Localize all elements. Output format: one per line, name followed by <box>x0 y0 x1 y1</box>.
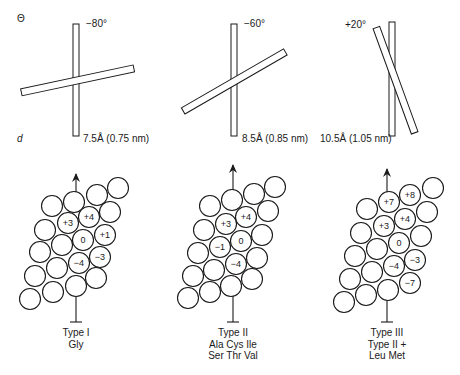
residue-list: Type II + <box>327 339 447 351</box>
residue-circle <box>100 202 121 223</box>
residue-circle <box>357 199 378 220</box>
helix-packing-diagram: Θ d −80° 7.5Å (0.75 nm) −60° 8.5Å (0.85 … <box>0 0 460 375</box>
residue-label: +4 <box>84 212 94 222</box>
residue-circle <box>204 260 225 281</box>
residue-label: +3 <box>379 221 389 231</box>
panel-3-helix-crossing: +20° 10.5Å (1.05 nm) <box>320 19 418 144</box>
residue-label: +1 <box>100 230 110 240</box>
residue-circle <box>200 282 221 303</box>
residue-circle <box>200 196 221 217</box>
residue-circle <box>194 220 215 241</box>
residue-circle <box>52 235 73 256</box>
residue-circle <box>20 289 41 310</box>
residue-circle <box>345 246 366 267</box>
angle-label: +20° <box>345 19 366 30</box>
residue-circle <box>258 201 279 222</box>
residue-circle <box>221 276 242 297</box>
caption-type-3: Type III Type II + Leu Met <box>327 327 447 362</box>
caption-type-1: Type I Gly <box>16 327 136 350</box>
residue-label: −3 <box>410 255 420 265</box>
residue-label: −4 <box>231 259 241 269</box>
crossing-helix-rod <box>373 26 418 134</box>
residue-label: −3 <box>95 252 105 262</box>
type-title: Type I <box>16 327 136 339</box>
residue-circle <box>108 178 129 199</box>
lattice-type-2: +4 +3 0 −1 −4 <box>178 165 286 322</box>
lattice-type-1: +4 +3 +1 0 −3 −4 <box>20 174 129 322</box>
caption-type-2: Type II Ala Cys Ile Ser Thr Val <box>173 327 293 362</box>
residue-circle <box>178 288 199 309</box>
residue-circle <box>265 177 286 198</box>
residue-circle <box>47 258 68 279</box>
residue-list: Gly <box>16 339 136 351</box>
residue-label: 0 <box>80 235 85 245</box>
residue-label: +7 <box>384 197 394 207</box>
residue-circle <box>244 184 265 205</box>
type-title: Type II <box>173 327 293 339</box>
residue-label: +4 <box>241 212 251 222</box>
residue-circle <box>43 282 64 303</box>
residue-circle <box>334 292 355 313</box>
type-title: Type III <box>327 327 447 339</box>
residue-label: −4 <box>389 261 399 271</box>
residue-circle <box>66 276 87 297</box>
lattice-type-3: +8 +7 +4 +3 0 −3 −4 −7 <box>334 169 444 322</box>
residue-label: −1 <box>215 242 225 252</box>
residue-circle <box>356 285 377 306</box>
residue-label: +8 <box>405 190 415 200</box>
distance-value: 10.5Å (1.05 nm) <box>320 132 392 144</box>
distance-value: 8.5Å (0.85 nm) <box>242 132 308 144</box>
residue-label: −7 <box>405 278 415 288</box>
residue-circle <box>378 280 399 301</box>
residue-circle <box>35 220 56 241</box>
residue-label: +3 <box>221 219 231 229</box>
distance-value: 7.5Å (0.75 nm) <box>83 132 149 144</box>
angle-label: −80° <box>86 18 107 29</box>
residue-circle <box>242 269 263 290</box>
residue-circle <box>42 196 63 217</box>
residue-circle <box>252 225 273 246</box>
residue-circle <box>423 178 444 199</box>
residue-circle <box>247 248 268 269</box>
residue-circle <box>362 262 383 283</box>
residue-circle <box>351 223 372 244</box>
residue-label: +3 <box>63 218 73 228</box>
residue-circle <box>417 202 438 223</box>
theta-label: Θ <box>17 13 25 24</box>
residue-circle <box>411 226 432 247</box>
residue-label: −4 <box>74 258 84 268</box>
panel-2-helix-crossing: −60° 8.5Å (0.85 nm) <box>181 18 308 144</box>
angle-label: −60° <box>244 18 265 29</box>
residue-list: Ser Thr Val <box>173 350 293 362</box>
residue-circle <box>222 190 243 211</box>
residue-list: Leu Met <box>327 350 447 362</box>
residue-circle <box>183 266 204 287</box>
residue-circle <box>86 268 107 289</box>
residue-circle <box>188 243 209 264</box>
residue-label: 0 <box>396 238 401 248</box>
residue-circle <box>340 269 361 290</box>
residue-label: 0 <box>238 236 243 246</box>
residue-circle <box>30 242 51 263</box>
distance-label: d <box>17 133 23 144</box>
residue-circle <box>87 185 108 206</box>
residue-circle <box>25 266 46 287</box>
panel-1-helix-crossing: −80° 7.5Å (0.75 nm) <box>21 18 150 144</box>
residue-circle <box>367 239 388 260</box>
residue-list: Ala Cys Ile <box>173 339 293 351</box>
residue-label: +4 <box>400 214 410 224</box>
